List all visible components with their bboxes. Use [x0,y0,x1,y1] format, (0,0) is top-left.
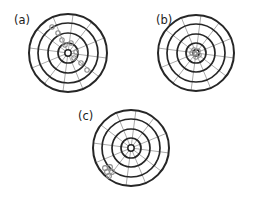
figure-container: (a)(b)(c) [0,0,261,200]
target-ring-circle [38,23,98,83]
target-marker [107,174,112,179]
target-ring-circle [177,34,215,72]
target-ring-circle [186,43,206,63]
target-ring-circle [167,24,225,82]
target-diagram-svg: (a)(b)(c) [0,0,261,200]
target-bullseye-circle [65,50,71,56]
panel-label-b: (b) [156,13,172,27]
panel-label-a: (a) [14,13,30,27]
panel-label-c: (c) [78,109,93,123]
target-marker [85,68,89,72]
target-ring-circle [93,110,169,186]
target-bullseye-circle [128,145,134,151]
target-panel-c [93,110,169,186]
target-ring-circle [102,119,160,177]
target-ring-circle [112,129,150,167]
target-ring-circle [48,33,88,73]
target-ring-circle [121,138,141,158]
target-panel-a [29,14,107,92]
target-ring-circle [29,14,107,92]
